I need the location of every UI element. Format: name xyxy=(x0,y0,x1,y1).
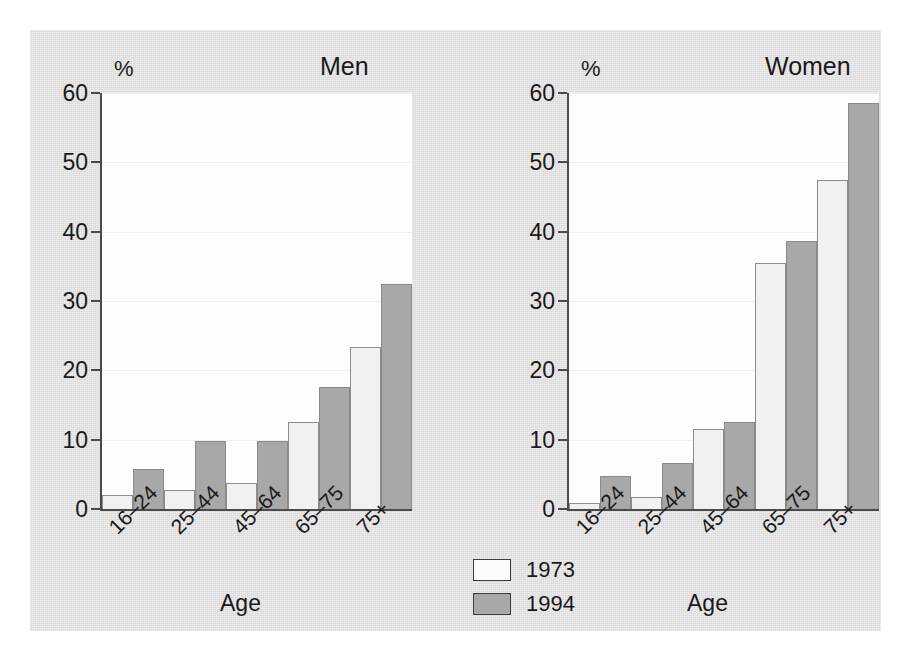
y-tick-40 xyxy=(91,231,100,233)
bar-group-25–44 xyxy=(631,93,693,509)
y-tick-label-50: 50 xyxy=(62,151,88,174)
y-tick-label-60: 60 xyxy=(529,82,555,105)
y-tick-10 xyxy=(91,439,100,441)
y-tick-20 xyxy=(91,369,100,371)
y-tick-label-50: 50 xyxy=(529,151,555,174)
legend-label-1994: 1994 xyxy=(526,591,575,617)
y-tick-label-20: 20 xyxy=(529,359,555,382)
y-tick-label-40: 40 xyxy=(529,220,555,243)
y-tick-label-60: 60 xyxy=(62,82,88,105)
bar-group-45–64 xyxy=(226,93,288,509)
bar-group-65–75 xyxy=(755,93,817,509)
legend: 1973 1994 xyxy=(473,557,575,625)
y-tick-30 xyxy=(558,300,567,302)
bar-group-16–24 xyxy=(102,93,164,509)
y-tick-30 xyxy=(91,300,100,302)
panel-title-women: Women xyxy=(765,52,851,81)
legend-swatch-1994 xyxy=(473,593,511,615)
chart-panel-women: % Women 0102030405060 16–2425–4445–6465–… xyxy=(460,30,881,631)
y-axis-unit-label-men: % xyxy=(114,56,134,82)
y-axis-unit-label-women: % xyxy=(581,56,601,82)
bar-group-25–44 xyxy=(164,93,226,509)
figure-panel: % Men 0102030405060 16–2425–4445–6465–75… xyxy=(30,30,881,631)
y-tick-label-0: 0 xyxy=(542,498,555,521)
y-tick-50 xyxy=(558,161,567,163)
bar-group-45–64 xyxy=(693,93,755,509)
y-tick-50 xyxy=(91,161,100,163)
y-tick-0 xyxy=(91,508,100,510)
bar-group-65–75 xyxy=(288,93,350,509)
bar-1973-65–75 xyxy=(755,263,786,509)
plot-area-men: 0102030405060 xyxy=(100,93,412,511)
y-tick-label-20: 20 xyxy=(62,359,88,382)
bar-group-container-women xyxy=(569,93,879,509)
bar-1973-75+ xyxy=(350,347,381,509)
plot-area-women: 0102030405060 xyxy=(567,93,879,511)
bar-group-75+ xyxy=(817,93,879,509)
bar-1994-75+ xyxy=(848,103,879,509)
y-tick-0 xyxy=(558,508,567,510)
legend-item-1973: 1973 xyxy=(473,557,575,583)
y-tick-40 xyxy=(558,231,567,233)
bar-1994-75+ xyxy=(381,284,412,509)
y-tick-label-10: 10 xyxy=(62,428,88,451)
bar-group-container-men xyxy=(102,93,412,509)
legend-label-1973: 1973 xyxy=(526,557,575,583)
panel-title-men: Men xyxy=(320,52,369,81)
y-tick-60 xyxy=(558,92,567,94)
y-tick-label-30: 30 xyxy=(529,290,555,313)
bar-1973-75+ xyxy=(817,180,848,509)
legend-swatch-1973 xyxy=(473,559,511,581)
x-axis-title-women: Age xyxy=(687,590,728,617)
y-tick-label-0: 0 xyxy=(75,498,88,521)
y-tick-60 xyxy=(91,92,100,94)
y-tick-20 xyxy=(558,369,567,371)
bar-1994-65–75 xyxy=(786,241,817,509)
x-axis-title-men: Age xyxy=(220,590,261,617)
bar-group-16–24 xyxy=(569,93,631,509)
bar-group-75+ xyxy=(350,93,412,509)
y-tick-label-10: 10 xyxy=(529,428,555,451)
y-tick-label-40: 40 xyxy=(62,220,88,243)
y-tick-label-30: 30 xyxy=(62,290,88,313)
y-tick-10 xyxy=(558,439,567,441)
legend-item-1994: 1994 xyxy=(473,591,575,617)
chart-panel-men: % Men 0102030405060 16–2425–4445–6465–75… xyxy=(30,30,450,631)
